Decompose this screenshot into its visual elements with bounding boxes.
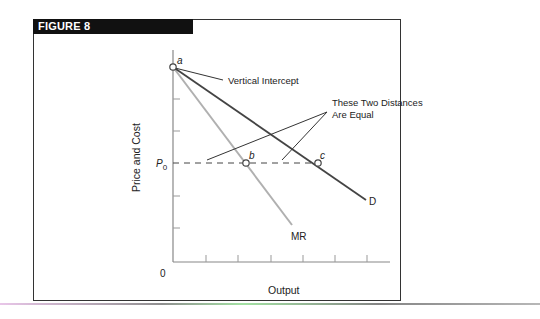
chart: a b c Vertical Intercept These Two Dista… bbox=[0, 0, 540, 319]
x-axis-ticks bbox=[206, 255, 367, 262]
point-b-label: b bbox=[249, 150, 255, 161]
origin-label: 0 bbox=[160, 268, 166, 279]
mr-curve-label: MR bbox=[291, 231, 307, 242]
point-a-marker bbox=[170, 64, 176, 70]
point-a-label: a bbox=[177, 55, 183, 66]
distances-label-line1: These Two Distances bbox=[332, 97, 423, 108]
p0-label: P0 bbox=[156, 158, 168, 172]
distances-label-line2: Are Equal bbox=[332, 109, 374, 120]
demand-curve-label: D bbox=[369, 196, 376, 207]
x-axis-label: Output bbox=[268, 284, 300, 296]
bottom-rule bbox=[0, 303, 540, 305]
vertical-intercept-label: Vertical Intercept bbox=[228, 75, 299, 86]
demand-curve bbox=[173, 67, 366, 200]
mr-curve bbox=[173, 67, 292, 225]
y-axis-label: Price and Cost bbox=[130, 123, 142, 192]
point-c-label: c bbox=[320, 150, 325, 161]
